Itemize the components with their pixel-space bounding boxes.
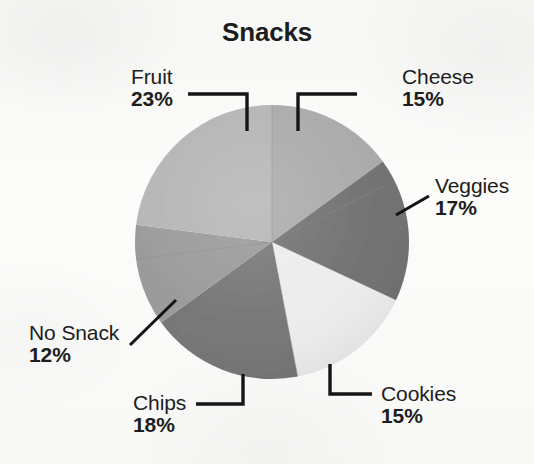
pie-chart-figure: Snacks	[0, 0, 534, 464]
callout-cookies-category: Cookies	[381, 383, 456, 405]
leader-line-chips	[196, 374, 243, 404]
callout-no-snack-category: No Snack	[29, 322, 119, 344]
callout-fruit-category: Fruit	[131, 66, 173, 88]
callout-veggies-percent: 17%	[435, 197, 509, 219]
callout-cheese-percent: 15%	[402, 88, 474, 110]
callout-chips-category: Chips	[133, 392, 186, 414]
callout-cheese-category: Cheese	[402, 66, 474, 88]
callout-veggies: Veggies 17%	[435, 175, 509, 220]
callout-chips: Chips 18%	[133, 392, 186, 437]
callout-fruit-percent: 23%	[131, 88, 173, 110]
callout-chips-percent: 18%	[133, 414, 186, 436]
callout-cheese: Cheese 15%	[402, 66, 474, 111]
callout-no-snack: No Snack 12%	[29, 322, 119, 367]
callout-no-snack-percent: 12%	[29, 344, 119, 366]
callout-cookies: Cookies 15%	[381, 383, 456, 428]
leader-line-cookies	[330, 364, 372, 394]
callout-fruit: Fruit 23%	[131, 66, 173, 111]
callout-veggies-category: Veggies	[435, 175, 509, 197]
callout-cookies-percent: 15%	[381, 405, 456, 427]
